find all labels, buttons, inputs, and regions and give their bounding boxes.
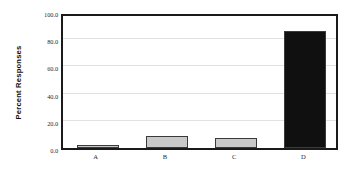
- x-axis-tick-label-A: A: [93, 153, 98, 160]
- x-axis-tick-label-B: B: [163, 153, 167, 160]
- y-axis-tick-label: 80.0: [26, 38, 58, 45]
- y-axis-tick-label: 40.0: [26, 92, 58, 99]
- x-axis-tick-labels: ABCD: [61, 153, 338, 169]
- y-axis-tick-label: 20.0: [26, 119, 58, 126]
- y-axis-tick-label: 0.0: [26, 147, 58, 154]
- bar-A: [77, 145, 119, 148]
- x-axis-tick-label-D: D: [301, 153, 306, 160]
- x-axis-tick-label-C: C: [232, 153, 236, 160]
- chart-figure: Percent Responses 0.020.040.060.080.0100…: [0, 0, 360, 180]
- bar-C: [215, 138, 257, 148]
- bar-B: [146, 136, 188, 148]
- y-axis-tick-labels: 0.020.040.060.080.0100.0: [23, 14, 58, 150]
- y-axis-tick-label: 100.0: [26, 11, 58, 18]
- y-axis-tick-label: 60.0: [26, 65, 58, 72]
- bar-series: [63, 16, 336, 148]
- plot-area: [61, 14, 338, 150]
- bar-D: [284, 31, 326, 148]
